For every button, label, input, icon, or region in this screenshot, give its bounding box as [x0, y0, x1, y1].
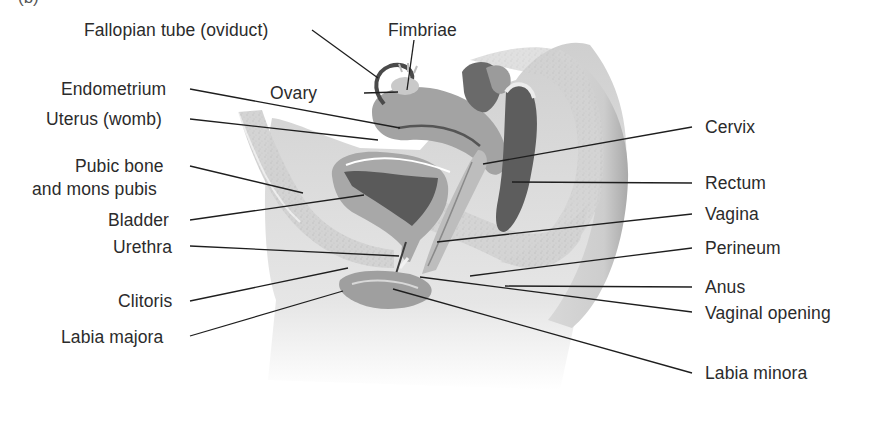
- label-fallopian-tube: Fallopian tube (oviduct): [84, 20, 268, 40]
- label-endometrium: Endometrium: [61, 79, 166, 99]
- label-clitoris: Clitoris: [118, 291, 172, 311]
- label-labia-minora: Labia minora: [705, 363, 807, 383]
- label-labia-majora: Labia majora: [61, 327, 163, 347]
- label-cervix: Cervix: [705, 117, 755, 137]
- label-pubic-bone: Pubic bone: [75, 156, 164, 176]
- anatomy-diagram: (b): [0, 0, 871, 429]
- label-rectum: Rectum: [705, 173, 766, 193]
- label-anus: Anus: [705, 277, 745, 297]
- label-ovary: Ovary: [270, 83, 317, 103]
- label-perineum: Perineum: [705, 238, 781, 258]
- label-urethra: Urethra: [113, 237, 172, 257]
- label-mons-pubis: and mons pubis: [32, 179, 157, 199]
- label-uterus: Uterus (womb): [46, 109, 162, 129]
- label-bladder: Bladder: [108, 210, 169, 230]
- label-vaginal-opening: Vaginal opening: [705, 303, 831, 323]
- label-fimbriae: Fimbriae: [388, 20, 457, 40]
- label-vagina: Vagina: [705, 204, 759, 224]
